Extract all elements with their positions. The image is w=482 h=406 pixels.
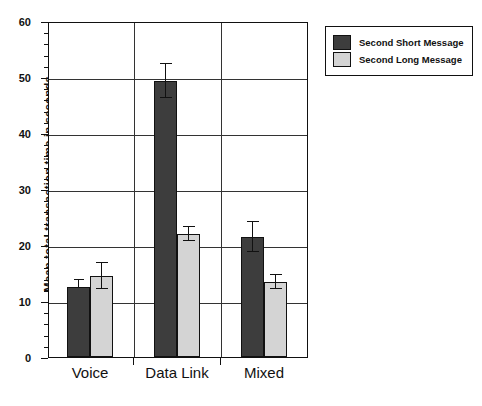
y-tick-label-40: 40 [19,128,31,140]
x-tick-2 [220,358,221,365]
plot-area [48,22,308,358]
x-tick-1 [133,358,134,365]
y-tick-major [41,302,48,303]
legend-entry-second-short-message: Second Short Message [333,35,466,50]
errorbar-cap-mixed-short-lower [247,251,259,252]
errorbar-cap-voice-long-lower [96,288,108,289]
y-axis-ticks [41,22,48,358]
bar-mixed-second-long-message [264,282,287,357]
y-tick-label-30: 30 [19,184,31,196]
x-axis-label-voice: Voice [72,364,109,381]
errorbar-cap-datalink-long-lower [183,240,195,241]
gridline-30 [49,191,307,192]
bar-voice-second-short-message [67,287,90,357]
errorbar-cap-mixed-long-lower [270,288,282,289]
gridline-40 [49,135,307,136]
errorbar-cap-datalink-short-upper [160,63,172,64]
bar-mixed-second-short-message [241,237,264,357]
errorbar-line-datalink-short-lower [165,81,166,98]
legend-label-second-short-message: Second Short Message [359,37,464,48]
category-separator-1 [134,23,135,357]
errorbar-cap-voice-short [74,279,84,280]
y-tick-major [41,134,48,135]
errorbar-line-datalink-long-upper [188,227,189,234]
errorbar-line-datalink-short-upper [165,64,166,81]
errorbar-line-mixed-short-upper [252,222,253,237]
errorbar-line-mixed-short-lower [252,237,253,252]
bar-chart-figure: Mean total transaction time in seconds 6… [0,0,482,406]
errorbar-cap-mixed-long-upper [270,274,282,275]
y-tick-label-60: 60 [19,16,31,28]
legend-swatch-dark-icon [333,35,351,50]
chart-legend: Second Short Message Second Long Message [325,26,473,76]
legend-entry-second-long-message: Second Long Message [333,52,466,67]
y-tick-major [41,246,48,247]
y-tick-label-50: 50 [19,72,31,84]
category-separator-2 [221,23,222,357]
y-tick-major [41,358,48,359]
errorbar-line-voice-long-upper [101,263,102,276]
y-axis-tick-labels: 60 50 40 30 20 10 0 [0,22,41,358]
y-tick-major [41,190,48,191]
y-tick-label-0: 0 [25,352,31,364]
errorbar-cap-datalink-long-upper [183,226,195,227]
x-axis-label-data-link: Data Link [145,364,208,381]
errorbar-cap-voice-long-upper [96,262,108,263]
y-tick-major [41,22,48,23]
y-tick-label-10: 10 [19,296,31,308]
errorbar-line-mixed-long-upper [275,275,276,282]
errorbar-line-voice-short [78,280,79,287]
y-tick-label-20: 20 [19,240,31,252]
x-axis-label-mixed: Mixed [244,364,284,381]
bar-datalink-second-short-message [154,81,177,357]
errorbar-cap-datalink-short-lower [160,97,172,98]
y-tick-major [41,78,48,79]
legend-swatch-light-icon [333,52,351,67]
bar-datalink-second-long-message [177,234,200,357]
errorbar-cap-mixed-short-upper [247,221,259,222]
gridline-50 [49,79,307,80]
legend-label-second-long-message: Second Long Message [359,54,462,65]
